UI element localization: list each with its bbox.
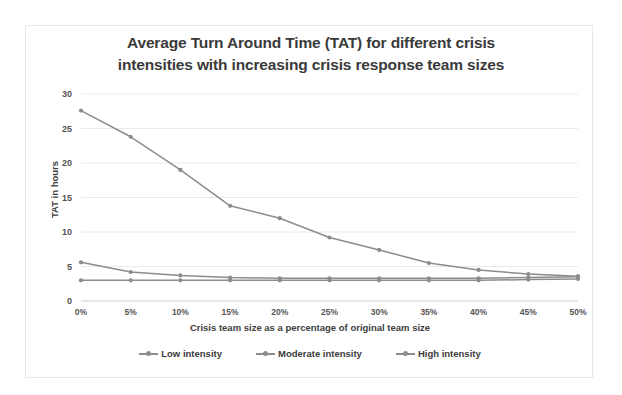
legend-swatch-icon	[139, 350, 158, 358]
data-point	[129, 278, 133, 282]
y-axis-label: TAT in hours	[49, 155, 60, 225]
data-point	[178, 273, 182, 277]
data-point	[526, 272, 530, 276]
y-tick-label: 15	[62, 193, 72, 203]
data-point	[129, 135, 133, 139]
data-point	[178, 168, 182, 172]
legend-item-high-intensity[interactable]: High intensity	[396, 348, 481, 359]
data-point	[178, 278, 182, 282]
data-point	[278, 216, 282, 220]
x-tick-label: 0%	[75, 307, 88, 317]
data-point	[477, 276, 481, 280]
data-point	[327, 276, 331, 280]
x-tick-label: 10%	[172, 307, 189, 317]
legend-item-moderate-intensity[interactable]: Moderate intensity	[256, 348, 362, 359]
x-tick-label: 15%	[222, 307, 239, 317]
x-tick-label: 25%	[321, 307, 338, 317]
x-tick-label: 5%	[125, 307, 138, 317]
x-tick-labels: 0%5%10%15%20%25%30%35%40%45%50%	[75, 307, 587, 317]
chart-container: Average Turn Around Time (TAT) for diffe…	[25, 25, 593, 378]
y-tick-label: 5	[67, 262, 72, 272]
data-point	[79, 108, 83, 112]
x-tick-label: 45%	[520, 307, 537, 317]
legend-label: High intensity	[418, 348, 481, 359]
legend-item-low-intensity[interactable]: Low intensity	[139, 348, 222, 359]
y-tick-labels: 051015202530	[62, 89, 72, 306]
data-point	[377, 276, 381, 280]
y-tick-label: 10	[62, 227, 72, 237]
series-layer	[79, 108, 580, 282]
x-tick-label: 35%	[420, 307, 437, 317]
series-line-moderate-intensity	[81, 262, 578, 278]
data-point	[79, 260, 83, 264]
data-point	[427, 261, 431, 265]
data-point	[377, 248, 381, 252]
data-point	[427, 276, 431, 280]
x-tick-label: 30%	[371, 307, 388, 317]
legend-label: Moderate intensity	[278, 348, 362, 359]
x-axis-label: Crisis team size as a percentage of orig…	[26, 322, 594, 333]
data-point	[477, 268, 481, 272]
legend-swatch-icon	[256, 350, 275, 358]
y-tick-label: 25	[62, 124, 72, 134]
chart-legend: Low intensityModerate intensityHigh inte…	[26, 348, 594, 359]
plot-area: 051015202530 0%5%10%15%20%25%30%35%40%45…	[26, 26, 594, 379]
legend-label: Low intensity	[161, 348, 222, 359]
x-tick-label: 50%	[569, 307, 586, 317]
data-point	[228, 275, 232, 279]
series-line-high-intensity	[81, 111, 578, 277]
x-tick-label: 20%	[271, 307, 288, 317]
data-point	[327, 235, 331, 239]
data-point	[79, 278, 83, 282]
y-tick-label: 20	[62, 158, 72, 168]
data-point	[129, 270, 133, 274]
data-point	[576, 274, 580, 278]
y-tick-label: 30	[62, 89, 72, 99]
gridlines	[81, 94, 578, 301]
x-tick-label: 40%	[470, 307, 487, 317]
data-point	[278, 276, 282, 280]
data-point	[228, 204, 232, 208]
y-tick-label: 0	[67, 296, 72, 306]
legend-swatch-icon	[396, 350, 415, 358]
